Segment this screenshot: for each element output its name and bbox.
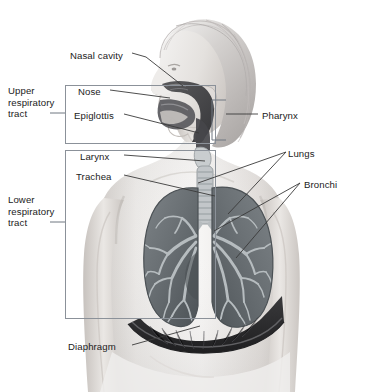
label-nasal-cavity: Nasal cavity — [70, 50, 123, 62]
group-label-upper-respiratory-tract: Upper respiratory tract — [8, 85, 54, 120]
label-nose: Nose — [78, 86, 101, 98]
respiratory-diagram-figure: Upper respiratory tract Lower respirator… — [0, 0, 372, 392]
label-epiglottis: Epiglottis — [74, 110, 114, 122]
label-lungs: Lungs — [288, 148, 315, 160]
label-larynx: Larynx — [80, 151, 109, 163]
label-diaphragm: Diaphragm — [68, 341, 116, 353]
group-label-lower-respiratory-tract: Lower respiratory tract — [8, 194, 54, 229]
label-pharynx: Pharynx — [262, 110, 298, 122]
label-trachea: Trachea — [76, 171, 112, 183]
anatomy-illustration — [0, 0, 372, 392]
label-bronchi: Bronchi — [304, 179, 337, 191]
